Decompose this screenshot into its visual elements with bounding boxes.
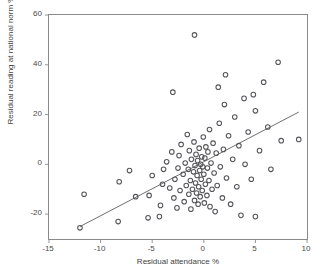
data-point: [194, 152, 199, 157]
data-point: [188, 178, 193, 183]
data-points: [78, 33, 301, 230]
data-point: [199, 177, 204, 182]
data-point: [220, 196, 225, 201]
data-point: [116, 219, 121, 224]
data-point: [208, 204, 213, 209]
data-point: [246, 130, 251, 135]
data-point: [175, 206, 180, 211]
data-point: [221, 147, 226, 152]
data-point: [206, 150, 211, 155]
data-point: [211, 141, 216, 146]
data-point: [207, 178, 212, 183]
data-point: [161, 167, 166, 172]
plot-canvas: [49, 15, 307, 239]
data-point: [242, 96, 247, 101]
data-point: [178, 188, 183, 193]
data-point: [192, 198, 197, 203]
data-point: [191, 170, 196, 175]
data-point: [184, 183, 189, 188]
data-point: [190, 187, 195, 192]
data-point: [189, 157, 194, 162]
data-point: [157, 214, 162, 219]
y-axis-title: Residual reading at national norm %: [6, 5, 15, 125]
data-point: [201, 135, 206, 140]
data-point: [261, 80, 266, 85]
data-point: [210, 187, 215, 192]
data-point: [192, 140, 197, 145]
data-point: [196, 202, 201, 207]
data-point: [209, 161, 214, 166]
data-point: [173, 177, 178, 182]
data-point: [279, 138, 284, 143]
data-point: [212, 171, 217, 176]
data-point: [202, 172, 207, 177]
data-point: [218, 165, 223, 170]
data-point: [158, 203, 163, 208]
x-axis-title: Residual attendance %: [48, 257, 308, 266]
data-point: [196, 184, 201, 189]
data-point: [147, 193, 152, 198]
data-point: [127, 168, 132, 173]
x-tick-label: 10: [292, 245, 320, 253]
data-point: [239, 213, 244, 218]
data-point: [171, 90, 176, 95]
y-tick-label: 20: [16, 110, 42, 118]
data-point: [205, 193, 210, 198]
data-point: [176, 166, 181, 171]
data-point: [207, 127, 212, 132]
data-point: [117, 179, 122, 184]
regression-line: [80, 112, 299, 226]
data-point: [222, 102, 227, 107]
data-point: [276, 60, 281, 65]
data-point: [205, 166, 210, 171]
x-tick-label: -5: [137, 245, 165, 253]
data-point: [198, 194, 203, 199]
data-point: [185, 132, 190, 137]
data-point: [82, 192, 87, 197]
data-point: [195, 173, 200, 178]
data-point: [177, 153, 182, 158]
data-point: [213, 209, 218, 214]
data-point: [237, 143, 242, 148]
data-point: [257, 148, 262, 153]
data-point: [183, 161, 188, 166]
x-tick-label: 0: [189, 245, 217, 253]
data-point: [172, 196, 177, 201]
x-tick-label: -10: [86, 245, 114, 253]
data-point: [200, 188, 205, 193]
data-point: [232, 115, 237, 120]
y-tick-label: 60: [16, 10, 42, 18]
data-point: [214, 151, 219, 156]
data-point: [164, 160, 169, 165]
data-point: [269, 167, 274, 172]
data-point: [226, 133, 231, 138]
data-point: [249, 177, 254, 182]
data-point: [197, 146, 202, 151]
data-point: [192, 33, 197, 38]
scatter-plot-figure: Residual reading at national norm % Resi…: [0, 0, 330, 272]
data-point: [296, 137, 301, 142]
data-point: [216, 85, 221, 90]
data-point: [223, 72, 228, 77]
y-tick-label: -20: [16, 209, 42, 217]
data-point: [194, 191, 199, 196]
x-tick-label: -15: [34, 245, 62, 253]
data-point: [253, 214, 258, 219]
data-point: [203, 182, 208, 187]
x-tick-label: 5: [240, 245, 268, 253]
data-point: [146, 216, 151, 221]
data-point: [253, 109, 258, 114]
plot-area: [48, 14, 308, 240]
data-point: [235, 184, 240, 189]
data-point: [189, 207, 194, 212]
data-point: [202, 201, 207, 206]
top-caption: [4, 0, 204, 8]
data-point: [243, 162, 248, 167]
data-point: [228, 202, 233, 207]
data-point: [251, 92, 256, 97]
data-point: [224, 176, 229, 181]
data-point: [167, 186, 172, 191]
data-point: [182, 199, 187, 204]
data-point: [170, 150, 175, 155]
y-tick-label: 40: [16, 60, 42, 68]
